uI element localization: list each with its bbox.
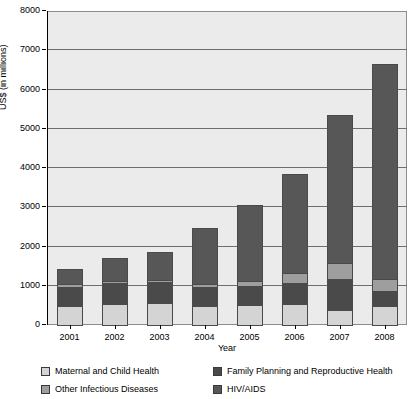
bar-segment: [327, 115, 353, 264]
bar-series-group: [47, 11, 407, 325]
legend-label: HIV/AIDS: [227, 384, 266, 394]
bar-column: [57, 11, 83, 325]
legend-swatch: [41, 367, 50, 376]
bar-segment: [57, 306, 83, 326]
x-axis-tick-label: 2002: [102, 325, 128, 345]
x-axis-tick-label: 2004: [192, 325, 218, 345]
bar-segment: [237, 286, 263, 306]
legend-item: HIV/AIDS: [213, 384, 411, 394]
y-axis-tick-label: 4000: [0, 163, 40, 172]
chart-legend: Maternal and Child HealthFamily Planning…: [41, 362, 411, 398]
y-axis-tick-label: 2000: [0, 242, 40, 251]
bar-segment: [237, 305, 263, 326]
bar-segment: [147, 303, 173, 326]
bar-segment: [102, 283, 128, 305]
bar-segment: [102, 304, 128, 326]
bar-column: [192, 11, 218, 325]
bar-segment: [282, 283, 308, 305]
legend-item: Maternal and Child Health: [41, 366, 213, 376]
x-axis-tick-mark: [385, 325, 386, 329]
legend-item: Other Infectious Diseases: [41, 384, 213, 394]
legend-swatch: [213, 385, 222, 394]
y-axis-title: US$ (in millions): [0, 44, 8, 110]
bar-column: [327, 11, 353, 325]
y-axis-tick-label: 5000: [0, 124, 40, 133]
legend-item: Family Planning and Reproductive Health: [213, 366, 411, 376]
x-axis-tick-mark: [250, 325, 251, 329]
bar-segment: [192, 306, 218, 326]
x-axis-tick-mark: [115, 325, 116, 329]
bar-segment: [147, 282, 173, 304]
y-axis-tick-label: 0: [0, 320, 40, 329]
y-axis-tick-label: 6000: [0, 85, 40, 94]
bar-segment: [237, 205, 263, 282]
bar-segment: [192, 228, 218, 285]
bar-segment: [192, 287, 218, 307]
bar-segment: [372, 306, 398, 326]
bar-segment: [327, 279, 353, 312]
legend-label: Family Planning and Reproductive Health: [227, 366, 393, 376]
x-axis-tick-mark: [70, 325, 71, 329]
legend-label: Other Infectious Diseases: [55, 384, 158, 394]
x-axis-tick-mark: [295, 325, 296, 329]
bar-segment: [147, 252, 173, 281]
bar-column: [282, 11, 308, 325]
bar-segment: [372, 291, 398, 308]
x-axis-tick-mark: [160, 325, 161, 329]
plot-area: [47, 11, 407, 325]
bar-column: [237, 11, 263, 325]
legend-label: Maternal and Child Health: [55, 366, 159, 376]
bar-column: [102, 11, 128, 325]
bar-segment: [102, 258, 128, 281]
bar-column: [372, 11, 398, 325]
legend-swatch: [41, 385, 50, 394]
x-axis-tick-label: 2007: [327, 325, 353, 345]
bar-segment: [372, 64, 398, 279]
y-axis-tick-label: 3000: [0, 202, 40, 211]
y-axis-tick-label: 1000: [0, 281, 40, 290]
x-axis-tick-label: 2001: [57, 325, 83, 345]
bar-segment: [57, 287, 83, 307]
y-axis-tick-label: 7000: [0, 45, 40, 54]
legend-swatch: [213, 367, 222, 376]
x-axis-tick-mark: [205, 325, 206, 329]
x-axis-title: Year: [47, 343, 407, 353]
y-axis-tick-label: 8000: [0, 6, 40, 15]
x-axis-tick-mark: [340, 325, 341, 329]
bar-segment: [57, 269, 83, 285]
bar-column: [147, 11, 173, 325]
x-axis-tick-label: 2006: [282, 325, 308, 345]
x-axis: 20012002200320042005200620072008: [47, 325, 407, 345]
bar-segment: [327, 263, 353, 280]
x-axis-tick-label: 2008: [372, 325, 398, 345]
bar-segment: [327, 310, 353, 326]
bar-segment: [282, 304, 308, 326]
chart-container: US$ (in millions) 0100020003000400050006…: [0, 0, 418, 399]
x-axis-tick-label: 2005: [237, 325, 263, 345]
x-axis-tick-label: 2003: [147, 325, 173, 345]
bar-segment: [282, 174, 308, 274]
